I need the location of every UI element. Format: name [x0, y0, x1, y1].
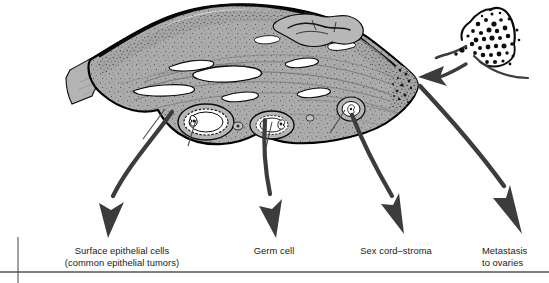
diagram-canvas: [0, 0, 549, 283]
arrow-sex-cord: [352, 115, 404, 234]
metastatic-tumor-mass: [436, 6, 528, 78]
label-germ-cell: Germ cell: [215, 245, 333, 257]
arrow-metastasis-out: [420, 86, 522, 234]
ovarian-tumor-origins-figure: Surface epithelial cells (common epithel…: [0, 0, 549, 283]
label-surface-epithelial-cells: Surface epithelial cells (common epithel…: [24, 245, 220, 268]
label-metastasis-to-ovaries: Metastasis to ovaries: [482, 245, 548, 268]
ovary-cross-section: [89, 4, 419, 144]
label-sex-cord-stroma: Sex cord–stroma: [330, 245, 462, 257]
arrow-metastasis-in: [418, 64, 466, 86]
arrow-surface-epithelial: [99, 112, 172, 238]
